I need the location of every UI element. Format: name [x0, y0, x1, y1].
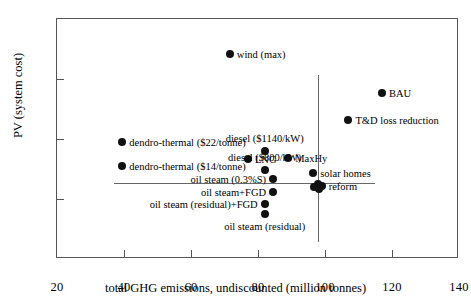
data-point — [261, 166, 269, 174]
data-point-label: diesel ($800/kW) — [228, 152, 301, 163]
data-point-label: BAU — [389, 88, 411, 99]
x-axis-tick — [392, 250, 393, 257]
data-point-label: oil steam (residual) — [224, 221, 305, 232]
data-point — [261, 210, 269, 218]
data-point-label: T&D loss reduction — [355, 115, 438, 126]
data-point — [261, 200, 269, 208]
data-point — [344, 116, 352, 124]
data-point-label: oil steam (residual)+FGD — [150, 198, 258, 209]
x-axis-title: total GHG emissions, undiscounted (milli… — [0, 281, 471, 296]
data-point-label: diesel ($1140/kW) — [226, 133, 304, 144]
data-point — [118, 162, 126, 170]
y-axis-tick — [57, 139, 64, 140]
data-point-label: reform — [329, 181, 358, 192]
x-axis-tick — [258, 250, 259, 257]
data-point — [269, 188, 277, 196]
data-point — [315, 185, 323, 193]
data-point — [118, 138, 126, 146]
y-axis-tick — [57, 79, 64, 80]
x-axis-tick — [191, 250, 192, 257]
scatter-chart-figure: 2200240026002800300020406080100120140win… — [0, 0, 471, 302]
y-axis-tick — [57, 199, 64, 200]
data-point — [309, 169, 317, 177]
data-point-label: oil steam+FGD — [201, 187, 266, 198]
data-point-label: solar homes — [320, 167, 370, 178]
x-axis-tick — [124, 250, 125, 257]
data-point-label: oil steam (0.3%S) — [191, 174, 267, 185]
data-point — [378, 89, 386, 97]
y-axis-title: PV (system cost) — [11, 16, 26, 176]
data-point — [226, 50, 234, 58]
plot-area: 2200240026002800300020406080100120140win… — [56, 18, 458, 258]
x-axis-tick — [325, 250, 326, 257]
data-point-label: wind (max) — [237, 49, 286, 60]
